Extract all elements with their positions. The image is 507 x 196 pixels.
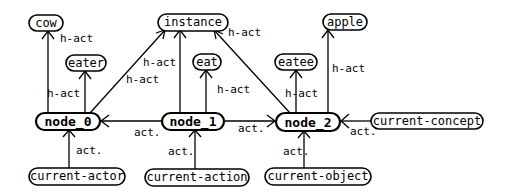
node-current-concept[interactable]: current-concept [371,113,483,129]
node-node-1[interactable]: node_1 [162,113,224,130]
edge-label: act. [76,144,103,157]
node-node-0[interactable]: node_0 [36,113,100,130]
edge-label: act. [168,145,195,158]
edge-label: h-act [285,87,318,100]
node-label: instance [164,15,222,29]
node-cow[interactable]: cow [29,15,63,31]
node-label: eatee [278,55,314,69]
node-label: eater [68,56,104,70]
node-label: apple [327,15,363,29]
node-label: cow [35,16,57,30]
edge-label: act. [134,126,161,139]
node-label: current-actor [30,169,124,183]
edge-label: h-act [228,26,261,39]
edges: h-act h-act h-act h-act h-act h-act h-ac… [42,26,377,169]
edge-label: h-act [217,83,250,96]
node-eater[interactable]: eater [66,55,106,71]
node-current-actor[interactable]: current-actor [29,168,125,185]
node-label: node_0 [45,114,92,130]
semantic-network-diagram: h-act h-act h-act h-act h-act h-act h-ac… [0,0,507,196]
node-label: current-object [267,169,368,183]
node-label: node_2 [285,115,332,131]
node-instance[interactable]: instance [158,14,228,31]
edge-label: act. [283,145,310,158]
node-label: eat [196,55,218,69]
edge-label: act. [238,122,265,135]
edge-node2-instance [214,30,290,113]
nodes: cow eater instance eat eatee apple node_… [29,14,483,186]
node-label: node_1 [170,114,217,130]
edge-label: h-act [332,62,365,75]
node-apple[interactable]: apple [323,14,367,30]
edge-label: h-act [143,56,176,69]
edge-label: h-act [47,87,80,100]
node-label: current-action [146,170,247,184]
node-node-2[interactable]: node_2 [276,113,340,131]
edge-node0-instance [90,30,165,113]
node-eatee[interactable]: eatee [275,54,317,70]
edge-label: h-act [60,32,93,45]
edge-label: h-act [126,73,159,86]
node-eat[interactable]: eat [193,54,221,70]
node-current-object[interactable]: current-object [265,168,371,185]
node-label: current-concept [373,114,481,128]
node-current-action[interactable]: current-action [145,169,249,186]
